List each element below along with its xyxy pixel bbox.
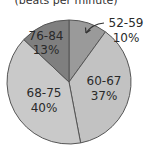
chart-title: (beats per minute) [14,0,117,7]
slice-label-68-75: 68-75 [27,86,62,100]
pie-chart: (beats per minute) 52-59 10% 60-67 37% 6… [0,0,151,155]
slice-pct-60-67: 37% [91,89,118,103]
slice-label-60-67: 60-67 [87,74,122,88]
slice-label-52-59: 52-59 [109,16,144,30]
slice-pct-68-75: 40% [31,101,58,115]
slice-label-76-84: 76-84 [29,29,64,43]
slice-pct-52-59: 10% [113,31,140,45]
slice-pct-76-84: 13% [33,43,60,57]
